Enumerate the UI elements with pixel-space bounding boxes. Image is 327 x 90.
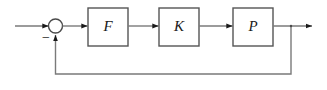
block-diagram-canvas: − F K P — [0, 0, 327, 90]
summing-junction-circle — [49, 19, 63, 33]
negative-sign-label: − — [42, 30, 50, 45]
block-diagram-svg: − F K P — [0, 0, 327, 90]
block-F-label: F — [102, 18, 113, 34]
block-K-label: K — [173, 18, 185, 34]
block-P-label: P — [247, 18, 257, 34]
feedback-tap-point — [290, 25, 292, 27]
